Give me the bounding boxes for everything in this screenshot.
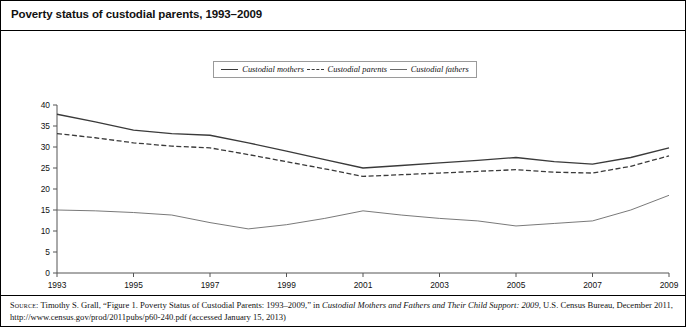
legend-line-swatch-dashed-icon [307,69,324,70]
legend-item-custodial-parents: Custodial parents [307,65,387,74]
series-line-custodial-parents [57,134,669,177]
source-line1-a: Timothy S. Grall, “Figure 1. Poverty Sta… [39,300,322,310]
y-tick-label: 20 [28,184,50,194]
x-tick-label: 2003 [420,280,460,290]
source-publication-title: Custodial Mothers and Fathers and Their … [322,300,539,310]
y-tick-label: 30 [28,142,50,152]
x-tick-label: 1999 [267,280,307,290]
figure-container: Poverty status of custodial parents, 199… [0,0,686,327]
legend-item-custodial-mothers: Custodial mothers [221,65,304,74]
y-tick-label: 15 [28,205,50,215]
legend-label: Custodial fathers [411,65,469,74]
legend-line-swatch-solid-icon [221,69,238,70]
source-prefix: Source: [10,301,39,310]
y-tick-label: 40 [28,100,50,110]
legend-item-custodial-fathers: Custodial fathers [390,65,469,74]
series-line-custodial-mothers [57,114,669,168]
y-tick-label: 5 [28,247,50,257]
legend-label: Custodial mothers [242,65,304,74]
source-line1-b: , [539,300,541,310]
page-title: Poverty status of custodial parents, 199… [11,8,262,20]
x-tick-label: 2005 [496,280,536,290]
y-tick-label: 10 [28,226,50,236]
source-note: Source: Timothy S. Grall, “Figure 1. Pov… [10,300,676,323]
x-tick-label: 2001 [343,280,383,290]
title-bar: Poverty status of custodial parents, 199… [1,1,685,31]
legend-line-swatch-thin-icon [390,69,407,70]
chart-svg [1,89,687,289]
series-line-custodial-fathers [57,195,669,229]
chart-plot-area: Percent 0510152025303540 199319951997199… [1,89,687,289]
source-note-bar: Source: Timothy S. Grall, “Figure 1. Pov… [1,295,685,326]
x-tick-label: 2009 [649,280,688,290]
x-tick-label: 1997 [190,280,230,290]
x-tick-label: 1993 [37,280,77,290]
x-tick-label: 2007 [573,280,613,290]
legend-label: Custodial parents [328,65,387,74]
x-tick-label: 1995 [114,280,154,290]
y-tick-label: 25 [28,163,50,173]
y-tick-label: 35 [28,121,50,131]
chart-legend: Custodial mothers Custodial parents Cust… [213,61,477,78]
y-tick-label: 0 [28,268,50,278]
